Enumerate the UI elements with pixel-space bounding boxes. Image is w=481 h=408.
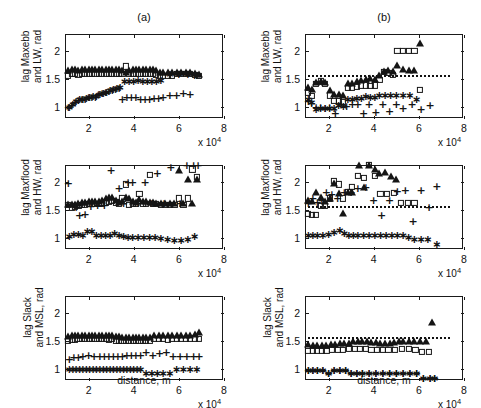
figure-root: (a) (b) lag Maxebb and LW, rad lag Maxeb… — [0, 0, 481, 408]
xtick-mark — [419, 247, 420, 250]
data-point-triangle — [392, 175, 400, 182]
ylabel-row2-col-a: lag Maxflood and HW, rad — [20, 143, 43, 233]
data-point-square — [392, 347, 398, 353]
xtick-label: 8 — [461, 122, 467, 134]
data-point-star: ∗ — [192, 69, 201, 80]
data-point-triangle — [355, 161, 363, 168]
ylabel-line2: and LW, rad — [31, 30, 42, 83]
x-axis-exponent-prefix: x 10 — [438, 137, 457, 148]
xtick-mark — [89, 247, 90, 250]
xtick-label: 6 — [416, 122, 422, 134]
xtick-mark — [329, 166, 330, 169]
xtick-mark — [179, 116, 180, 119]
data-point-square — [412, 347, 418, 353]
ytick-label: 2 — [294, 45, 300, 57]
ytick-mark — [221, 341, 224, 342]
ytick-mark — [221, 210, 224, 211]
data-point-square — [426, 349, 432, 355]
data-point-plus: + — [107, 165, 116, 176]
ytick-label: 1 — [54, 101, 60, 113]
ytick-label: 2 — [294, 307, 300, 319]
data-point-square — [385, 347, 391, 353]
data-point-plus: + — [409, 215, 418, 226]
xtick-mark — [134, 35, 135, 38]
ytick-mark — [221, 369, 224, 370]
xtick-label: 8 — [221, 384, 227, 396]
ytick-mark — [461, 238, 464, 239]
xtick-mark — [179, 35, 180, 38]
x-axis-exponent-prefix: x 10 — [198, 137, 217, 148]
ytick-mark — [461, 210, 464, 211]
data-point-plus: + — [417, 185, 426, 196]
data-point-triangle — [422, 338, 430, 345]
ytick-mark — [461, 79, 464, 80]
xtick-label: 8 — [221, 122, 227, 134]
x-axis-exponent-power: 4 — [217, 135, 221, 144]
xtick-mark — [329, 35, 330, 38]
data-point-triangle — [410, 66, 418, 73]
plot-area-a1: 11.522468x 104++++++++++++++++++++++++++… — [65, 34, 223, 118]
data-point-plus: + — [128, 177, 137, 188]
data-point-plus: + — [398, 102, 407, 113]
data-point-square — [376, 77, 382, 83]
xtick-mark — [89, 166, 90, 169]
data-point-plus: + — [401, 185, 410, 196]
x-axis-exponent: x 104 — [198, 135, 221, 148]
ytick-label: 1.5 — [45, 204, 60, 216]
ytick-mark — [306, 313, 309, 314]
data-point-star: ∗ — [432, 239, 441, 250]
data-point-plus: + — [100, 199, 109, 210]
xtick-mark — [134, 166, 135, 169]
data-point-star: ∗ — [430, 372, 439, 383]
xtick-label: 4 — [371, 253, 377, 265]
ytick-label: 1.5 — [285, 73, 300, 85]
data-point-plus: + — [153, 167, 162, 178]
data-point-star: ∗ — [192, 364, 201, 375]
ylabel-line1: lag Slack — [262, 297, 273, 338]
x-axis-exponent: x 104 — [198, 397, 221, 408]
ytick-mark — [221, 238, 224, 239]
ytick-mark — [221, 313, 224, 314]
data-point-plus: + — [166, 162, 175, 173]
xtick-label: 2 — [86, 384, 92, 396]
data-point-square — [411, 48, 417, 54]
xtick-mark — [224, 116, 225, 119]
xtick-mark — [134, 297, 135, 300]
xtick-mark — [419, 166, 420, 169]
xtick-mark — [329, 247, 330, 250]
ytick-mark — [461, 51, 464, 52]
xtick-mark — [224, 35, 225, 38]
ytick-mark — [306, 182, 309, 183]
ytick-label: 1.5 — [45, 73, 60, 85]
data-point-square — [406, 345, 412, 351]
xtick-mark — [329, 297, 330, 300]
ytick-mark — [221, 51, 224, 52]
data-point-plus: + — [147, 197, 156, 208]
xtick-mark — [464, 247, 465, 250]
xtick-mark — [374, 35, 375, 38]
panel-title-b: (b) — [305, 11, 463, 23]
xtick-mark — [419, 116, 420, 119]
xtick-label: 4 — [131, 122, 137, 134]
ytick-label: 2 — [54, 45, 60, 57]
x-axis-exponent-power: 4 — [457, 397, 461, 406]
data-point-triangle — [339, 210, 347, 217]
x-axis-exponent-prefix: x 10 — [438, 399, 457, 408]
ylabel-row1-col-a: lag Maxebb and LW, rad — [20, 12, 43, 102]
data-point-plus: + — [426, 100, 435, 111]
ytick-mark — [461, 369, 464, 370]
xtick-label: 2 — [326, 122, 332, 134]
x-axis-exponent-prefix: x 10 — [438, 268, 457, 279]
data-point-square — [399, 345, 405, 351]
data-point-plus: + — [361, 182, 370, 193]
xtick-mark — [89, 116, 90, 119]
data-point-plus: + — [119, 197, 128, 208]
data-point-plus: + — [195, 351, 204, 362]
ytick-label: 1 — [54, 363, 60, 375]
ytick-label: 1.5 — [45, 335, 60, 347]
xtick-mark — [419, 35, 420, 38]
data-point-square — [196, 336, 202, 342]
data-point-plus: + — [369, 194, 378, 205]
data-point-square — [322, 81, 328, 87]
data-point-triangle — [428, 319, 436, 326]
